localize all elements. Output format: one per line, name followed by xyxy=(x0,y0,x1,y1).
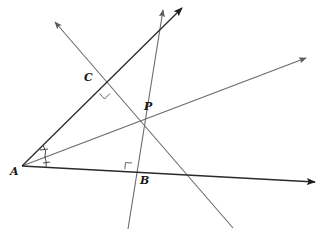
geometry-diagram xyxy=(0,0,325,238)
angle-tick-lower xyxy=(43,162,50,163)
label-point-a: A xyxy=(10,166,19,177)
label-point-b: B xyxy=(140,175,149,186)
right-angle-mark-b xyxy=(125,163,132,170)
lower-side-ray xyxy=(22,166,315,182)
right-angle-mark-c xyxy=(100,94,111,100)
label-point-p: P xyxy=(144,101,152,112)
angle-bisector-ray xyxy=(22,58,306,166)
perpendicular-line-through-c xyxy=(55,22,233,228)
angle-tick-upper xyxy=(40,149,48,150)
upper-side-ray xyxy=(22,8,182,166)
label-point-c: C xyxy=(84,72,93,83)
angle-arc-upper xyxy=(43,145,46,157)
